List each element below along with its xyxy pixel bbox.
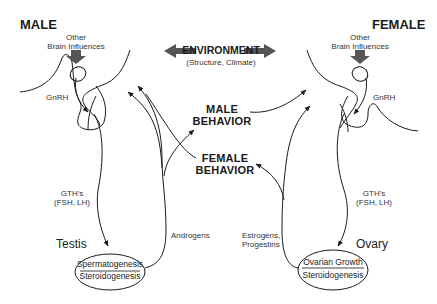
- male-brain-influences-label: Other Brain Influences: [44, 34, 108, 52]
- female-title: FEMALE: [372, 18, 425, 33]
- environment-sublabel: (Structure, Climate): [176, 59, 266, 68]
- male-title: MALE: [20, 18, 57, 33]
- androgens-arrow: [138, 86, 166, 268]
- male-brain-influences-arrow: [66, 50, 86, 64]
- female-gnrh-label: GnRH: [373, 94, 395, 103]
- male-hypothalamus-loop: [68, 64, 89, 84]
- estrogens-label: Estrogens, Progestins: [242, 232, 280, 250]
- male-behavior-line1: MALE: [192, 103, 252, 115]
- female-behavior-to-male-brain: [146, 94, 196, 158]
- female-brain-influences-arrow: [350, 50, 370, 64]
- male-gth-arrow: [94, 114, 108, 246]
- estrogens-line2: Progestins: [242, 241, 280, 250]
- androgens-label: Androgens: [171, 232, 210, 241]
- female-behavior-label: FEMALE BEHAVIOR: [193, 152, 257, 177]
- female-brain-influences-label: Other Brain Influences: [328, 34, 392, 52]
- male-behavior-to-female-brain: [250, 90, 306, 112]
- estrogens-to-female-behavior-arrow: [256, 164, 284, 200]
- neuroendocrine-behavior-diagram: MALE Other Brain Influences GnRH GTH's (…: [0, 0, 437, 304]
- testis-label: Testis: [56, 238, 87, 251]
- male-gth-line2: (FSH, LH): [52, 199, 92, 208]
- ovary-function-bottom: Steroidogenesis: [299, 271, 367, 281]
- environment-right-block-arrow-2: [265, 45, 275, 57]
- ovary-function-top: Ovarian Growth: [299, 258, 367, 268]
- male-brain-influences-line2: Brain Influences: [44, 43, 108, 52]
- female-brain-influences-line2: Brain Influences: [328, 43, 392, 52]
- female-gth-line2: (FSH, LH): [354, 199, 394, 208]
- testis-function-bottom: Steroidogenesis: [76, 272, 144, 282]
- female-gth-label: GTH's (FSH, LH): [354, 190, 394, 208]
- testis-function-top: Spermatogenesis: [76, 260, 144, 270]
- androgens-brain-branch: [128, 92, 162, 168]
- male-gth-label: GTH's (FSH, LH): [52, 190, 92, 208]
- female-brain-outline-left: [307, 50, 357, 128]
- ovary-label: Ovary: [356, 238, 388, 251]
- environment-label: ENVIRONMENT: [176, 45, 266, 57]
- female-behavior-line2: BEHAVIOR: [193, 164, 257, 176]
- female-hypothalamus-loop: [350, 64, 371, 84]
- male-gnrh-label: GnRH: [46, 94, 68, 103]
- male-behavior-line2: BEHAVIOR: [192, 115, 252, 127]
- male-behavior-label: MALE BEHAVIOR: [192, 103, 252, 128]
- female-gnrh-arrow: [354, 78, 367, 114]
- estrogens-arrow: [282, 106, 310, 268]
- female-behavior-line1: FEMALE: [193, 152, 257, 164]
- female-gth-arrow: [337, 114, 347, 246]
